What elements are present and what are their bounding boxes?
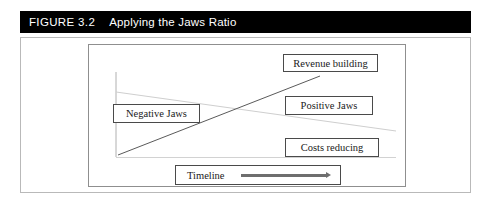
callout-positive-jaws: Positive Jaws <box>285 96 373 115</box>
right-arrow-icon <box>241 174 327 177</box>
figure-container: FIGURE 3.2 Applying the Jaws Ratio Reven… <box>0 0 494 208</box>
figure-title-bar: FIGURE 3.2 Applying the Jaws Ratio <box>20 11 471 33</box>
callout-negative-jaws-label: Negative Jaws <box>126 108 187 119</box>
figure-caption-label: Applying the Jaws Ratio <box>109 16 236 28</box>
figure-number-label: FIGURE 3.2 <box>29 16 95 28</box>
callout-revenue-building: Revenue building <box>283 54 378 72</box>
callout-costs-reducing-label: Costs reducing <box>301 142 364 153</box>
timeline-box: Timeline <box>175 165 341 185</box>
callout-costs-reducing: Costs reducing <box>285 138 379 157</box>
callout-positive-jaws-label: Positive Jaws <box>301 100 358 111</box>
timeline-label: Timeline <box>187 170 225 181</box>
callout-revenue-building-label: Revenue building <box>293 58 367 69</box>
callout-negative-jaws: Negative Jaws <box>113 104 200 123</box>
